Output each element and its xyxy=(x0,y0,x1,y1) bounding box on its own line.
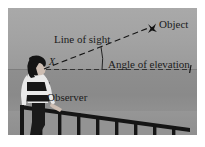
label-object: Object xyxy=(159,19,188,30)
label-vertex-x: X xyxy=(49,57,55,67)
angle-arc xyxy=(101,47,103,70)
diagram-figure: Object Line of sight Angle of elevation … xyxy=(0,0,205,147)
railing-group xyxy=(20,105,190,135)
label-angle-of-elevation: Angle of elevation xyxy=(108,59,190,70)
diagram-scene: Object Line of sight Angle of elevation … xyxy=(8,8,197,135)
bird-icon xyxy=(148,24,157,34)
label-observer: Observer xyxy=(47,92,87,103)
label-line-of-sight: Line of sight xyxy=(54,34,110,45)
